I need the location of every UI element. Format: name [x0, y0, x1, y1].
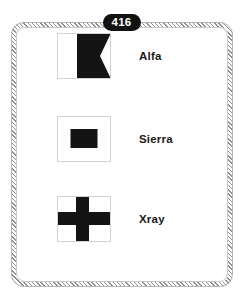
flag-list-item-xray: Xray [16, 191, 227, 247]
flag-swatch-xray [57, 196, 111, 242]
flag-label-sierra: Sierra [139, 133, 173, 145]
flag-list: Alfa Sierra Xray [16, 16, 227, 281]
flag-swatch-sierra [57, 116, 111, 162]
flag-list-item-sierra: Sierra [16, 111, 227, 167]
flag-list-item-alfa: Alfa [16, 28, 227, 84]
flag-label-xray: Xray [139, 213, 165, 225]
flag-swatch-alfa [57, 33, 111, 79]
maritime-signal-flag-alfa-icon [57, 33, 111, 79]
maritime-signal-flag-sierra-icon [57, 116, 111, 162]
maritime-signal-flag-xray-icon [57, 196, 111, 242]
page-number-badge: 416 [103, 14, 141, 31]
flag-label-alfa: Alfa [139, 50, 162, 62]
